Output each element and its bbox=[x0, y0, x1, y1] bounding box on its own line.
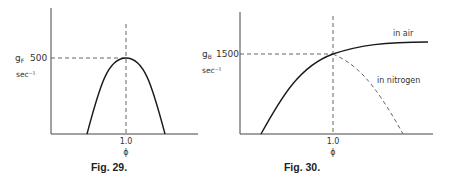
fig30-ylabel: gB bbox=[202, 49, 212, 60]
fig30-chart: in air in nitrogen gB 1500 sec⁻¹ 1.0 ϕ F… bbox=[202, 12, 433, 173]
fig30-curve-in-air bbox=[261, 42, 428, 134]
fig29-ytick: 500 bbox=[30, 53, 47, 63]
fig30-xtick: 1.0 bbox=[327, 137, 340, 146]
fig30-xlabel: ϕ bbox=[330, 148, 335, 157]
fig30-label-in-nitrogen: in nitrogen bbox=[377, 76, 420, 85]
fig30-caption: Fig. 30. bbox=[284, 161, 320, 173]
fig30-yunit: sec⁻¹ bbox=[202, 66, 222, 75]
fig29-ylabel: gF bbox=[15, 53, 25, 64]
fig30-curve-in-nitrogen bbox=[333, 54, 403, 134]
fig29-chart: gF 500 sec⁻¹ 1.0 ϕ Fig. 29. bbox=[15, 8, 198, 173]
fig29-xlabel: ϕ bbox=[123, 148, 128, 157]
fig30-label-in-air: in air bbox=[393, 29, 414, 38]
fig29-yunit: sec⁻¹ bbox=[16, 70, 36, 79]
fig29-xtick: 1.0 bbox=[120, 137, 133, 146]
figures-canvas: gF 500 sec⁻¹ 1.0 ϕ Fig. 29. in air in ni… bbox=[0, 0, 450, 184]
fig30-ytick: 1500 bbox=[216, 49, 239, 59]
fig29-caption: Fig. 29. bbox=[91, 161, 127, 173]
